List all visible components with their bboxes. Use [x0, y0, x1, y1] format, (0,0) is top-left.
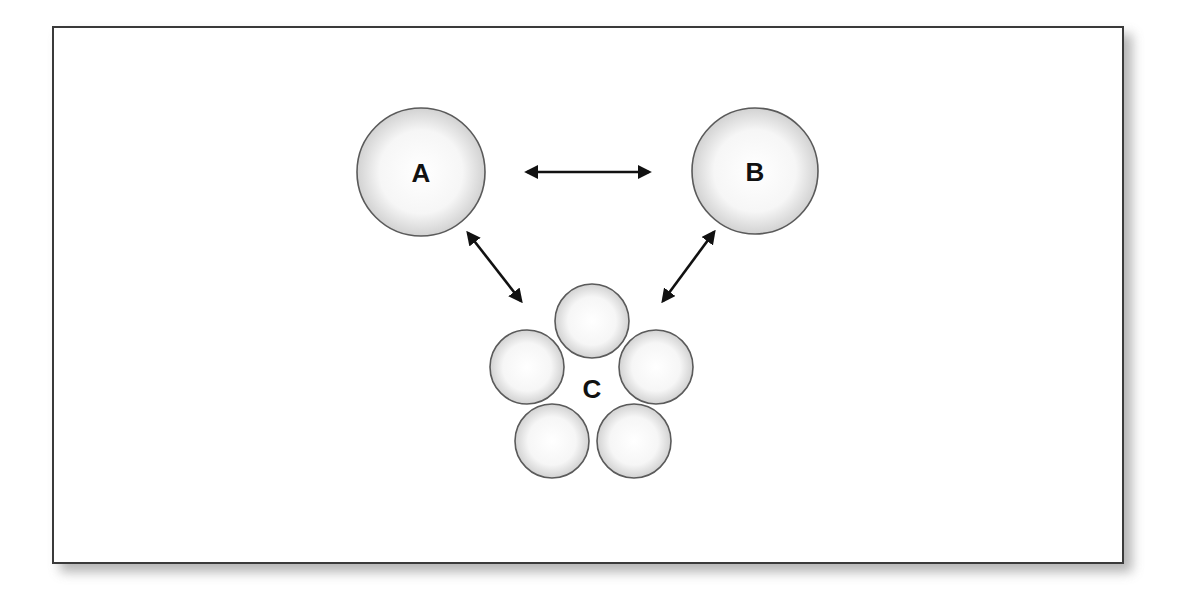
node-c-member-left	[490, 330, 564, 404]
node-c-member-bottom-left	[515, 404, 589, 478]
node-c-member-top	[555, 284, 629, 358]
arrow-a-c	[468, 233, 521, 301]
node-c-label: C	[583, 374, 602, 404]
arrow-b-c	[663, 232, 714, 301]
node-c-member-bottom-right	[597, 404, 671, 478]
relationship-diagram: A B C	[0, 0, 1180, 594]
node-a: A	[357, 108, 485, 236]
node-b: B	[692, 108, 818, 234]
node-b-label: B	[746, 157, 765, 187]
node-c-member-right	[619, 330, 693, 404]
node-c-cluster: C	[490, 284, 693, 478]
node-a-label: A	[412, 158, 431, 188]
